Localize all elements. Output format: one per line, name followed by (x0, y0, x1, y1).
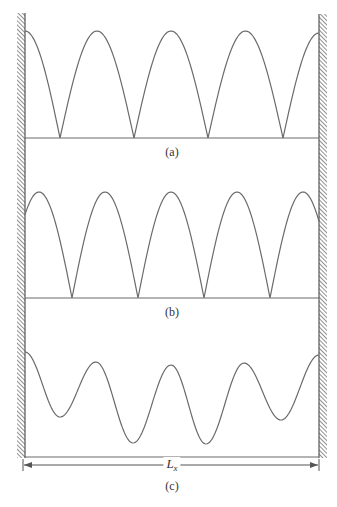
panel-a-label: (a) (165, 146, 178, 158)
length-label: Lx (163, 457, 180, 475)
panel-c-label: (c) (165, 480, 178, 492)
panel-b (25, 192, 319, 298)
standing-wave-figure: (a) (b) (c) Lx (0, 0, 337, 507)
right-wall (319, 14, 327, 458)
panel-b-wave (25, 192, 319, 298)
panel-c-wave (25, 352, 319, 444)
length-subscript: x (174, 463, 178, 473)
panel-a-wave (25, 31, 319, 138)
panel-c (25, 352, 319, 457)
left-wall (17, 13, 25, 458)
panel-a (25, 31, 319, 138)
panel-b-label: (b) (165, 306, 179, 318)
figure-canvas (0, 0, 337, 507)
